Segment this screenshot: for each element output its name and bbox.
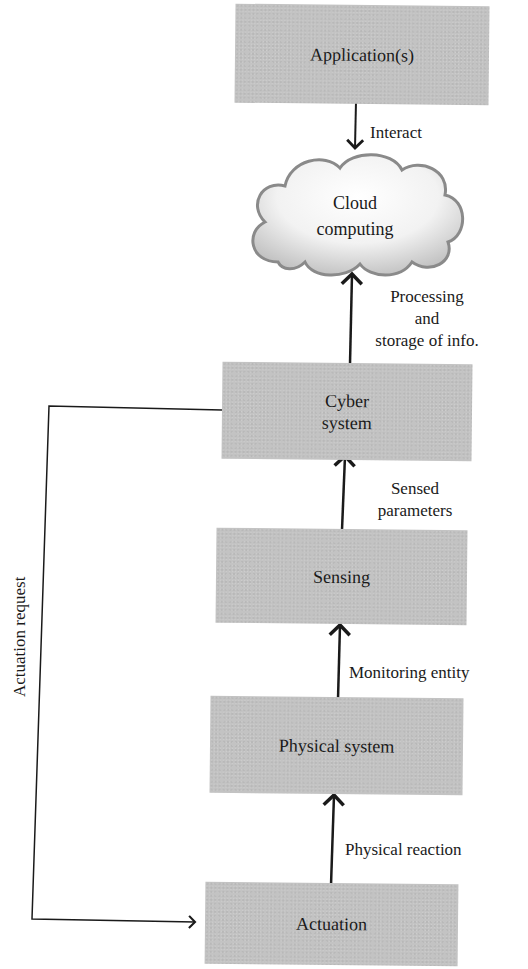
node-actuation: Actuation: [205, 882, 459, 967]
cyber-label-line1: Cyber: [325, 389, 369, 411]
edge-label-actuation-request: Actuation request: [10, 577, 30, 697]
node-cyber-system: Cyber system: [221, 362, 472, 462]
node-applications: Application(s): [234, 4, 489, 106]
edge-label-processing: Processing and storage of info.: [362, 286, 492, 352]
node-applications-label: Application(s): [310, 43, 414, 66]
node-actuation-label: Actuation: [296, 913, 367, 936]
sensed-line2: parameters: [360, 500, 470, 522]
node-physical-system: Physical system: [209, 696, 463, 796]
edge-label-monitoring-entity: Monitoring entity: [349, 662, 469, 684]
cloud-label-line2: computing: [250, 216, 460, 242]
edge-label-interact: Interact: [370, 122, 422, 144]
node-cloud-computing: Cloud computing: [250, 190, 460, 242]
node-physical-system-label: Physical system: [279, 734, 395, 757]
cloud-label-line1: Cloud: [250, 190, 460, 216]
node-sensing-label: Sensing: [313, 565, 370, 588]
edge-label-physical-reaction: Physical reaction: [345, 839, 462, 861]
cyber-label-line2: system: [322, 411, 372, 434]
processing-line2: and: [362, 308, 492, 330]
node-sensing: Sensing: [216, 528, 468, 626]
sensed-line1: Sensed: [360, 478, 470, 500]
processing-line3: storage of info.: [362, 330, 492, 352]
processing-line1: Processing: [362, 286, 492, 308]
cps-diagram: Application(s) Cloud computing Cyber sys…: [0, 0, 528, 969]
edge-label-sensed-parameters: Sensed parameters: [360, 478, 470, 522]
